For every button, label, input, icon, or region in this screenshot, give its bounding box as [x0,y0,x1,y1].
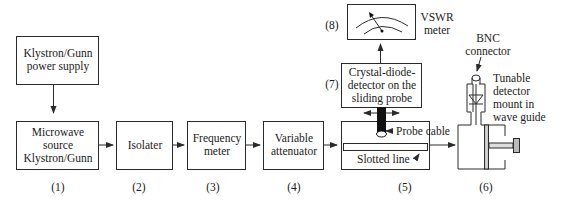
line: Variable [263,132,325,145]
slotted-line-annotation: Slotted line [357,153,410,166]
line: detector [493,85,546,98]
probe-cable-annotation: Probe cable [396,125,450,138]
crystal-detector-label: Crystal-diode- detector on the sliding p… [341,66,423,105]
vswr-meter-box [348,5,416,40]
line: detector on the [341,79,423,92]
number-6: (6) [474,181,498,194]
line: connector [460,45,516,58]
tunable-mount-annotation: Tunable detector mount in wave guide [493,72,546,124]
frequency-meter-label: Frequency meter [187,132,247,158]
number-2: (2) [127,181,151,194]
line: sliding probe [341,92,423,105]
line: wave guide [493,111,546,124]
slotted-line-bar [344,144,428,151]
bnc-connector-annotation: BNC connector [460,32,516,58]
number-3: (3) [201,181,225,194]
number-4: (4) [282,181,306,194]
power-supply-label: Klystron/Gunn power supply [16,47,100,73]
line: meter [187,145,247,158]
number-7: (7) [320,78,344,91]
diagram-lines [0,0,562,203]
isolater-label: Isolater [116,139,174,152]
line: Klystron/Gunn [16,47,100,60]
line: Crystal-diode- [341,66,423,79]
line: power supply [16,60,100,73]
line: meter [418,24,456,37]
line: Isolater [116,139,174,152]
number-5: (5) [393,181,417,194]
line: Klystron/Gunn [16,152,100,165]
line: Frequency [187,132,247,145]
line: attenuator [263,145,325,158]
source-label: Microwave source Klystron/Gunn [16,126,100,165]
line: Microwave [16,126,100,139]
attenuator-label: Variable attenuator [263,132,325,158]
line: mount in [493,98,546,111]
line: Tunable [493,72,546,85]
line: BNC [460,32,516,45]
vswr-meter-annotation: VSWR meter [418,11,456,37]
line: source [16,139,100,152]
line: VSWR [418,11,456,24]
number-1: (1) [46,181,70,194]
number-8: (8) [320,19,344,32]
